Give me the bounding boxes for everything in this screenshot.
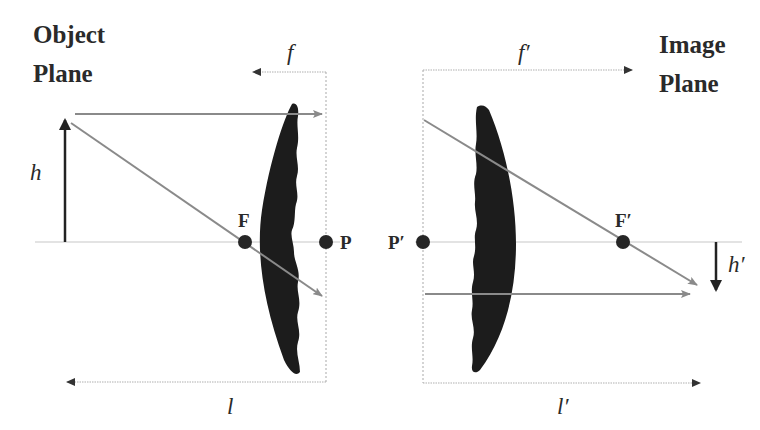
image-distance-label: l′ — [557, 394, 569, 419]
object-distance-label: l — [227, 394, 233, 419]
rear-lens — [472, 106, 516, 373]
object-plane-title: Object Plane — [33, 21, 106, 87]
image-plane-title-line2: Plane — [659, 70, 719, 97]
image-height-label: h′ — [728, 252, 746, 277]
rear-focal-point-label: F′ — [615, 210, 632, 231]
object-plane-title-line1: Object — [33, 21, 106, 48]
rear-focal-point — [616, 235, 630, 249]
front-lens — [260, 104, 300, 374]
rear-focal-length-label: f′ — [518, 40, 530, 65]
optics-diagram: Object Plane Image Plane f f′ l l′ h h′ … — [0, 0, 760, 430]
front-principal-point — [319, 235, 333, 249]
front-focal-point — [238, 235, 252, 249]
image-plane-title: Image Plane — [659, 31, 726, 97]
front-focal-point-label: F — [238, 210, 250, 231]
parallel-ray-refracted — [424, 120, 697, 285]
rear-principal-point-label: P′ — [388, 232, 405, 253]
front-focal-length-label: f — [287, 40, 297, 65]
object-plane-title-line2: Plane — [33, 60, 93, 87]
image-plane-title-line1: Image — [659, 31, 726, 58]
front-principal-point-label: P — [340, 232, 352, 253]
object-height-label: h — [30, 160, 42, 185]
rear-principal-point — [416, 235, 430, 249]
